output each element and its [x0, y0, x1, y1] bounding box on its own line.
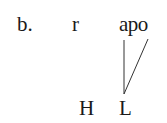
association-line-o-to-L	[124, 39, 148, 94]
tone-low: L	[119, 98, 132, 119]
tone-high: H	[79, 98, 94, 119]
